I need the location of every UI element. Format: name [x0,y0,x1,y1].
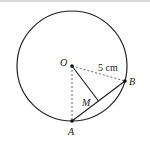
label-A: A [67,126,75,137]
circle-diagram: O 5 cm B M A [0,0,150,145]
point-O [70,64,74,68]
label-B: B [129,76,135,87]
label-M: M [81,97,91,108]
label-O: O [60,57,67,68]
label-radius: 5 cm [98,62,118,73]
point-B [123,79,127,83]
point-A [70,119,74,123]
segment-OM [72,66,99,101]
